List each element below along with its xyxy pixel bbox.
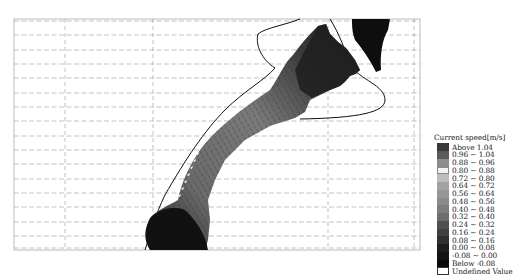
legend-swatch <box>437 182 449 190</box>
legend-swatch <box>437 143 449 151</box>
legend-swatch <box>437 174 449 182</box>
legend-entry: Undefined Value <box>434 267 512 275</box>
legend-swatch <box>437 198 449 206</box>
legend-swatch <box>437 190 449 198</box>
legend-swatch <box>437 229 449 237</box>
legend: Current speed[m/s] Above 1.04 0.96 ~ 1.0… <box>434 134 512 275</box>
legend-swatch <box>437 159 449 167</box>
legend-title: Current speed[m/s] <box>434 134 512 141</box>
legend-swatch <box>437 236 449 244</box>
legend-swatch <box>437 151 449 159</box>
legend-swatch <box>437 167 449 175</box>
legend-swatch <box>437 244 449 252</box>
legend-swatch <box>437 252 449 260</box>
legend-swatch <box>437 260 449 268</box>
legend-swatch <box>437 213 449 221</box>
legend-swatch <box>437 267 449 275</box>
legend-swatch <box>437 205 449 213</box>
legend-swatch <box>437 221 449 229</box>
